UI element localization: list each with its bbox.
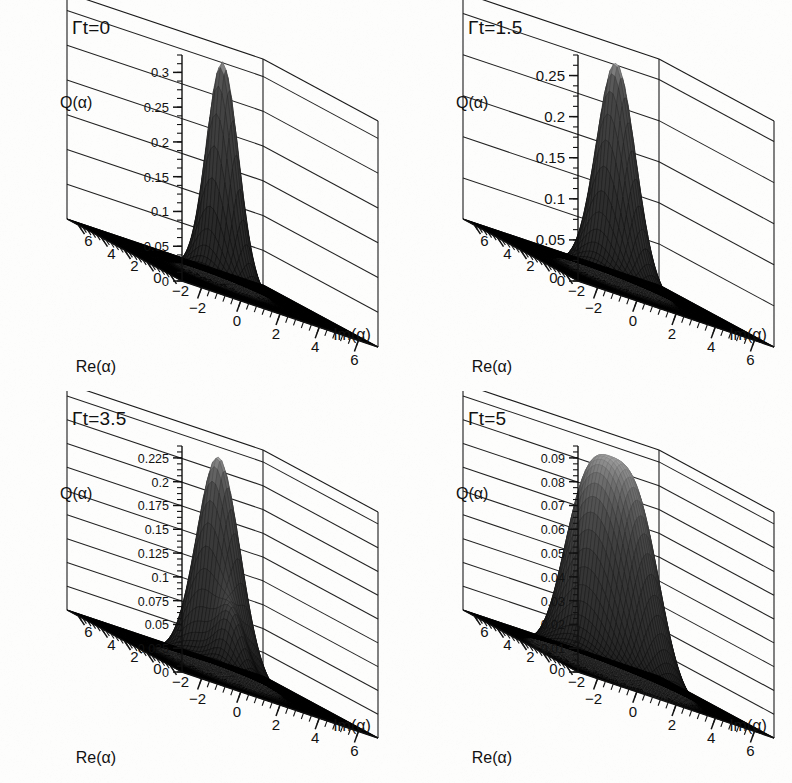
z-tick-label: 0.04: [541, 571, 565, 585]
y-tick-label: 6: [746, 351, 754, 368]
panel-title: Γt=5: [468, 408, 506, 429]
y-tick-label: 0: [629, 703, 637, 720]
x-axis-label: Re(α): [76, 358, 116, 375]
z-tick-label: 0.07: [541, 499, 565, 513]
figure-canvas: 00.050.10.150.20.250.36420−2−20246Γt=0Q(…: [0, 0, 792, 783]
z-tick-label: 0.05: [145, 618, 169, 632]
x-axis-label: Re(α): [472, 358, 512, 375]
surface-mesh: [463, 455, 774, 738]
z-tick-label: 0.05: [541, 547, 565, 561]
z-tick-label: 0.125: [138, 547, 169, 561]
x-tick-label: −2: [172, 282, 189, 299]
z-tick-label: 0.2: [152, 476, 169, 490]
z-tick-label: 0.05: [536, 231, 565, 248]
y-tick-label: 0: [629, 312, 637, 329]
x-axis-label: Re(α): [472, 749, 512, 766]
y-tick-label: 4: [311, 729, 319, 746]
z-axis-label: Q(α): [60, 94, 92, 111]
surface-plot-panel-0: 00.050.10.150.20.250.36420−2−20246Γt=0Q(…: [0, 0, 396, 391]
x-tick-label: −2: [172, 673, 189, 690]
x-tick-label: 4: [503, 636, 511, 653]
y-tick-label: −2: [585, 299, 602, 316]
z-tick-label: 0.075: [138, 595, 169, 609]
x-tick-label: 4: [107, 245, 115, 262]
x-tick-label: 2: [526, 257, 534, 274]
x-tick-label: −2: [568, 282, 585, 299]
y-tick-label: 6: [746, 742, 754, 759]
surface-plot-panel-2: 00.0250.050.0750.10.1250.150.1750.20.225…: [0, 391, 396, 782]
z-tick-label: 0.1: [151, 204, 169, 219]
panel-title: Γt=0: [72, 17, 110, 38]
z-tick-label: 0.09: [541, 452, 565, 466]
y-tick-label: 4: [311, 338, 319, 355]
z-tick-label: 0: [558, 666, 565, 680]
y-tick-label: −2: [189, 690, 206, 707]
y-tick-label: 2: [272, 716, 280, 733]
z-tick-label: 0.1: [544, 190, 565, 207]
x-tick-label: 2: [130, 648, 138, 665]
x-tick-label: 4: [503, 245, 511, 262]
z-tick-label: 0.02: [541, 618, 565, 632]
x-tick-label: −2: [568, 673, 585, 690]
y-tick-label: 6: [350, 351, 358, 368]
z-tick-label: 0.25: [144, 100, 169, 115]
z-tick-label: 0.15: [145, 523, 169, 537]
z-tick-label: 0.06: [541, 523, 565, 537]
x-tick-label: 0: [549, 269, 557, 286]
z-tick-label: 0.2: [151, 135, 169, 150]
y-tick-label: 0: [233, 703, 241, 720]
z-tick-label: 0.03: [541, 595, 565, 609]
surface-mesh: [67, 62, 378, 347]
z-axis-label: Q(α): [456, 94, 488, 111]
x-tick-label: 2: [130, 257, 138, 274]
y-tick-label: 0: [233, 312, 241, 329]
x-tick-label: 6: [84, 232, 92, 249]
y-tick-label: 2: [272, 325, 280, 342]
z-tick-label: 0.025: [138, 642, 169, 656]
panel-title: Γt=1.5: [468, 17, 522, 38]
y-tick-label: 4: [707, 729, 715, 746]
x-tick-label: 2: [526, 648, 534, 665]
y-axis-label: Im(α): [333, 717, 371, 734]
z-tick-label: 0.25: [536, 67, 565, 84]
y-axis-label: Im(α): [729, 326, 767, 343]
x-tick-label: 0: [153, 660, 161, 677]
z-tick-label: 0.15: [144, 170, 169, 185]
x-axis-label: Re(α): [76, 749, 116, 766]
y-axis-label: Im(α): [333, 326, 371, 343]
z-tick-label: 0.225: [138, 452, 169, 466]
z-tick-label: 0: [162, 666, 169, 680]
y-tick-label: −2: [189, 299, 206, 316]
y-axis-label: Im(α): [729, 717, 767, 734]
panel-title: Γt=3.5: [72, 408, 126, 429]
x-tick-label: 6: [480, 232, 488, 249]
y-tick-label: 6: [350, 742, 358, 759]
z-axis-label: Q(α): [60, 485, 92, 502]
z-tick-label: 0.175: [138, 499, 169, 513]
y-tick-label: 4: [707, 338, 715, 355]
surface-plot-panel-3: 00.010.020.030.040.050.060.070.080.09642…: [396, 391, 792, 782]
z-axis-label: Q(α): [456, 485, 488, 502]
x-tick-label: 0: [549, 660, 557, 677]
y-tick-label: 2: [668, 325, 676, 342]
x-tick-label: 6: [480, 623, 488, 640]
surface-plot-panel-1: 00.050.10.150.20.256420−2−20246Γt=1.5Q(α…: [396, 0, 792, 391]
z-tick-label: 0.1: [152, 571, 169, 585]
z-tick-label: 0.08: [541, 476, 565, 490]
surface-mesh: [463, 64, 774, 347]
z-tick-label: 0.2: [544, 108, 565, 125]
z-tick-label: 0.3: [151, 65, 169, 80]
x-tick-label: 6: [84, 623, 92, 640]
z-tick-label: 0.05: [144, 239, 169, 254]
z-tick-label: 0.15: [536, 149, 565, 166]
x-tick-label: 0: [153, 269, 161, 286]
y-tick-label: −2: [585, 690, 602, 707]
x-tick-label: 4: [107, 636, 115, 653]
y-tick-label: 2: [668, 716, 676, 733]
